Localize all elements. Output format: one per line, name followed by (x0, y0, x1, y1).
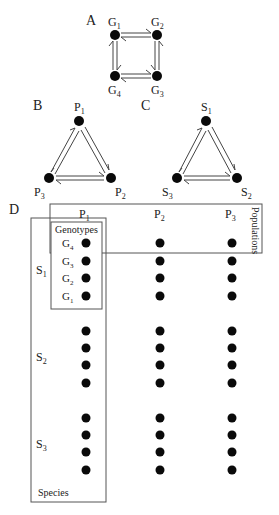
node-p3-label: P3 (34, 185, 45, 201)
panel-a-label: A (86, 13, 97, 28)
node-g3-label: G3 (151, 83, 164, 99)
node-p1-label: P1 (74, 100, 85, 116)
edge-s2-s3 (184, 172, 230, 184)
diagram-canvas: A G1 G2 G3 G4 B (0, 0, 279, 515)
node-g2-label: G2 (151, 15, 164, 31)
node-p3 (44, 173, 54, 183)
edge-s3-s1 (179, 128, 206, 174)
panel-d-label: D (9, 202, 19, 217)
edge-g1-g2 (121, 29, 151, 41)
node-s2-label: S2 (241, 185, 252, 201)
cell-s2-p3 (228, 327, 237, 388)
edge-g2-g3 (151, 41, 163, 70)
node-g1-label: G1 (108, 15, 121, 31)
node-g4 (110, 71, 120, 81)
panel-a: A G1 G2 G3 G4 (86, 13, 164, 99)
panel-b: B P1 P2 P3 (33, 98, 126, 201)
node-s3-label: S3 (162, 185, 173, 201)
panel-c-label: C (141, 98, 150, 113)
edge-p3-p1 (51, 128, 79, 174)
genotypes-box (51, 222, 102, 309)
node-g4-label: G4 (108, 83, 121, 99)
node-s1 (201, 116, 211, 126)
row-label-s1: S1 (36, 263, 47, 279)
cell-s2-p1 (82, 327, 91, 388)
genotypes-box-label: Genotypes (55, 224, 98, 235)
node-s2 (232, 173, 242, 183)
dot-grid (82, 239, 237, 475)
node-p2 (106, 173, 116, 183)
node-g3 (152, 71, 162, 81)
row-label-s3: S3 (36, 437, 47, 453)
populations-box-label: Populations (250, 207, 261, 254)
cell-s3-p2 (156, 414, 165, 475)
edge-s1-s2 (208, 127, 235, 173)
node-g2 (152, 30, 162, 40)
edge-g3-g4 (121, 70, 151, 82)
panel-d: D Genotypes Species Populations P1 P2 P3… (9, 202, 262, 502)
node-s3 (172, 173, 182, 183)
panel-b-label: B (33, 98, 42, 113)
cell-s3-p1 (82, 414, 91, 475)
row-label-s2: S2 (36, 350, 47, 366)
panel-c: C S1 S2 S3 (141, 98, 252, 201)
node-p1 (74, 116, 84, 126)
edge-p1-p2 (81, 127, 109, 173)
edge-g4-g1 (109, 41, 121, 70)
edge-p2-p3 (56, 172, 104, 184)
node-s1-label: S1 (201, 100, 212, 116)
node-g1 (110, 30, 120, 40)
cell-s3-p3 (228, 414, 237, 475)
node-p2-label: P2 (115, 185, 126, 201)
cell-s2-p2 (156, 327, 165, 388)
species-box-label: Species (38, 487, 69, 498)
